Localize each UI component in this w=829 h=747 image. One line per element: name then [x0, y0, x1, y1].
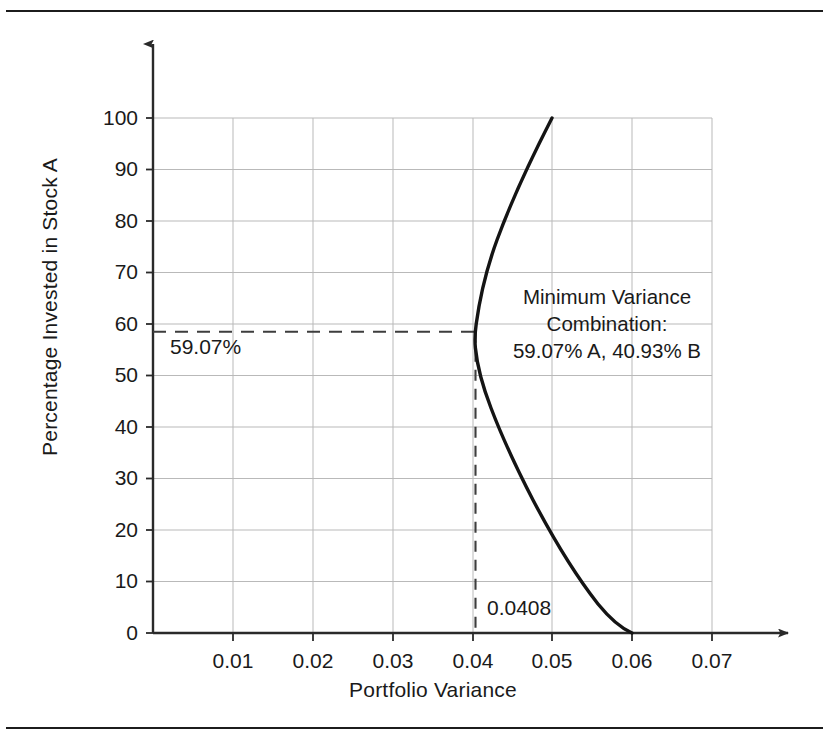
y-tick-label-30: 30 [76, 467, 138, 488]
x-tick-label-0-02: 0.02 [273, 650, 353, 671]
y-tick-label-60: 60 [76, 313, 138, 334]
figure-frame: 100 90 80 70 60 50 40 30 20 10 0 0.01 0.… [0, 0, 829, 747]
callout-line-3: 59.07% A, 40.93% B [482, 337, 732, 364]
y-tick-label-100: 100 [76, 107, 138, 128]
callout-line-2: Combination: [482, 310, 732, 337]
x-tick-label-0-05: 0.05 [512, 650, 592, 671]
x-tick-label-0-07: 0.07 [672, 650, 752, 671]
x-tick-label-0-04: 0.04 [433, 650, 513, 671]
x-axis-title: Portfolio Variance [153, 678, 713, 702]
y-value-label: 59.07% [170, 336, 241, 357]
x-value-label: 0.0408 [487, 597, 551, 618]
x-tick-label-0-01: 0.01 [193, 650, 273, 671]
callout-line-1: Minimum Variance [482, 283, 732, 310]
y-tick-label-90: 90 [76, 158, 138, 179]
y-tick-label-80: 80 [76, 210, 138, 231]
y-tick-label-70: 70 [76, 261, 138, 282]
x-tick-label-0-03: 0.03 [353, 650, 433, 671]
y-tick-label-40: 40 [76, 416, 138, 437]
y-tick-label-10: 10 [76, 570, 138, 591]
x-tick-label-0-06: 0.06 [592, 650, 672, 671]
y-tick-label-0: 0 [76, 622, 138, 643]
y-tick-label-50: 50 [76, 364, 138, 385]
y-tick-label-20: 20 [76, 519, 138, 540]
minimum-variance-callout: Minimum Variance Combination: 59.07% A, … [482, 283, 732, 364]
y-axis-title: Percentage Invested in Stock A [38, 47, 62, 567]
